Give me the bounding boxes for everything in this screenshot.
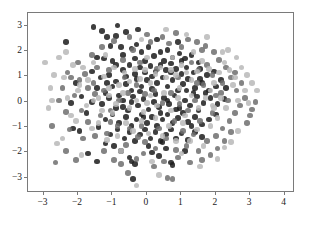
scatter-point (189, 60, 195, 66)
scatter-point (72, 93, 78, 99)
y-tick-mark (24, 151, 27, 152)
x-tick-label: 2 (203, 196, 227, 208)
scatter-point (49, 98, 55, 104)
scatter-point (127, 105, 133, 111)
scatter-point (142, 139, 148, 145)
scatter-point (118, 148, 124, 154)
scatter-point (91, 80, 97, 86)
scatter-point (56, 98, 62, 104)
scatter-point (211, 80, 217, 86)
scatter-point (253, 99, 259, 105)
scatter-point (151, 164, 157, 170)
scatter-point (108, 43, 114, 49)
scatter-point (141, 151, 147, 157)
scatter-point (73, 118, 79, 124)
scatter-point (210, 72, 216, 78)
scatter-point (239, 80, 245, 86)
scatter-point (137, 76, 143, 82)
scatter-point (215, 156, 221, 162)
scatter-point (206, 66, 212, 72)
y-tick-mark (24, 177, 27, 178)
scatter-point (246, 100, 252, 106)
scatter-point (82, 71, 88, 77)
scatter-point (122, 136, 128, 142)
y-tick-label: 3 (0, 19, 22, 31)
scatter-point (153, 115, 159, 121)
x-tick-label: 0 (134, 196, 158, 208)
y-tick-mark (24, 50, 27, 51)
scatter-point (139, 37, 145, 43)
scatter-point (115, 133, 121, 139)
scatter-point (135, 134, 141, 140)
scatter-point (132, 161, 138, 167)
scatter-point (244, 72, 250, 78)
scatter-point (161, 90, 167, 96)
scatter-point (173, 66, 179, 72)
scatter-point (144, 120, 150, 126)
scatter-point (80, 65, 86, 71)
scatter-point (184, 143, 190, 149)
scatter-point (168, 61, 174, 67)
scatter-point (177, 85, 183, 91)
scatter-point (111, 65, 117, 71)
y-tick-label: 1 (0, 69, 22, 81)
scatter-point (194, 127, 200, 133)
scatter-point (144, 100, 150, 106)
scatter-point (166, 123, 172, 129)
scatter-point (151, 88, 157, 94)
scatter-point (228, 129, 234, 135)
scatter-point (208, 88, 214, 94)
scatter-point (208, 152, 214, 158)
scatter-point (191, 49, 197, 55)
scatter-point (182, 98, 188, 104)
scatter-point (46, 105, 52, 111)
scatter-point (123, 114, 129, 120)
scatter-point (179, 151, 185, 157)
scatter-point (60, 136, 66, 142)
scatter-point (148, 80, 154, 86)
scatter-point (199, 157, 205, 163)
scatter-point (194, 80, 200, 86)
scatter-point (118, 161, 124, 167)
scatter-point (75, 88, 81, 94)
scatter-point (120, 90, 126, 96)
scatter-point (227, 118, 233, 124)
scatter-point (234, 55, 240, 61)
x-tick-label: −3 (31, 196, 55, 208)
scatter-point (123, 120, 129, 126)
scatter-point (103, 52, 109, 58)
scatter-point (68, 100, 74, 106)
scatter-point (120, 57, 126, 63)
scatter-point (201, 100, 207, 106)
scatter-point (187, 160, 193, 166)
scatter-point (115, 23, 121, 29)
scatter-point (91, 24, 97, 30)
scatter-point (170, 176, 176, 182)
scatter-point (173, 138, 179, 144)
scatter-point (113, 101, 119, 107)
x-tick-mark (77, 192, 78, 195)
scatter-point (130, 47, 136, 53)
x-tick-label: −1 (99, 196, 123, 208)
scatter-point (60, 85, 66, 91)
scatter-point (63, 39, 69, 45)
scatter-point (158, 110, 164, 116)
scatter-point (201, 82, 207, 88)
scatter-point (156, 153, 162, 159)
scatter-point (244, 120, 250, 126)
y-tick-mark (24, 25, 27, 26)
scatter-point (130, 128, 136, 134)
scatter-point (222, 145, 228, 151)
scatter-point (49, 123, 55, 129)
scatter-point (139, 123, 145, 129)
scatter-point (242, 88, 248, 94)
scatter-point (249, 80, 255, 86)
plot-area (27, 12, 294, 192)
x-tick-label: −2 (65, 196, 89, 208)
scatter-point (151, 53, 157, 59)
scatter-point (125, 170, 131, 176)
scatter-point (216, 70, 222, 76)
scatter-point (194, 39, 200, 45)
scatter-point (94, 85, 100, 91)
scatter-point (139, 118, 145, 124)
